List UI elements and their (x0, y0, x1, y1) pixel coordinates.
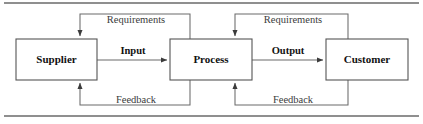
loop-label-requirements-1: Requirements (107, 14, 165, 25)
node-label-supplier: Supplier (36, 53, 76, 65)
node-label-process: Process (193, 53, 229, 65)
process-flow-diagram: Supplier Process Customer Input Output R… (0, 0, 423, 124)
loop-label-requirements-2: Requirements (264, 14, 322, 25)
loop-label-feedback-2: Feedback (273, 94, 314, 105)
node-label-customer: Customer (344, 53, 391, 65)
flow-label-output: Output (272, 45, 305, 56)
flow-label-input: Input (120, 45, 146, 56)
loop-label-feedback-1: Feedback (116, 94, 157, 105)
